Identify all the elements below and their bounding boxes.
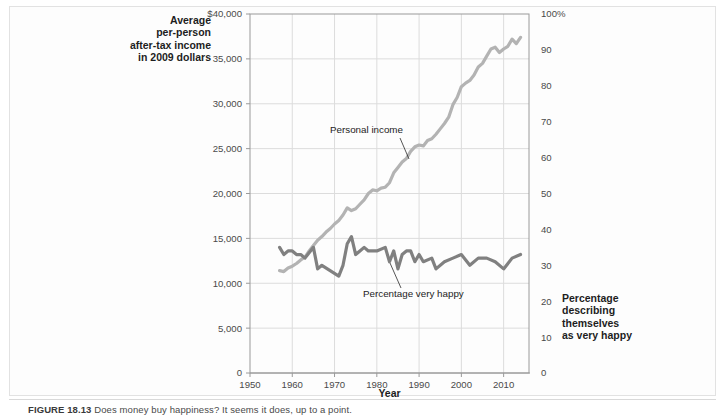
left-tick-label: 25,000 [213,143,242,154]
right-tick-label: 80 [541,80,552,91]
annotation-label-personal-income: Personal income [330,124,404,135]
x-tick-label: 2000 [451,379,472,390]
left-tick-label: 35,000 [213,53,242,64]
caption-text: Does money buy happiness? It seems it do… [94,404,352,415]
figure-page: Average per-person after-tax income in 2… [0,0,725,417]
left-tick-label: $40,000 [207,8,242,19]
left-tick-label: 30,000 [213,98,242,109]
x-tick-label: 1950 [239,379,260,390]
right-tick-label: 90 [541,44,552,55]
annotation-label-percentage-very-happy: Percentage very happy [363,288,464,299]
line-chart: 05,00010,00015,00020,00025,00030,00035,0… [0,0,725,400]
right-tick-label: 100% [541,8,566,19]
right-tick-label: 0 [541,367,546,378]
left-tick-label: 5,000 [218,323,242,334]
left-tick-label: 15,000 [213,233,242,244]
left-axis-ticks: 05,00010,00015,00020,00025,00030,00035,0… [207,8,250,378]
caption-label: FIGURE 18.13 [28,404,92,415]
x-tick-label: 1990 [408,379,429,390]
x-axis-ticks: 1950196019701980199020002010 [239,373,530,390]
right-axis-ticks: 0102030405060708090100% [541,8,566,378]
right-tick-label: 40 [541,224,552,235]
series-line-personal-income [280,37,521,271]
left-tick-label: 10,000 [213,278,242,289]
data-series-layer [280,37,521,276]
right-tick-label: 30 [541,260,552,271]
caption-divider [9,399,716,400]
left-tick-label: 20,000 [213,188,242,199]
right-tick-label: 10 [541,332,552,343]
right-tick-label: 70 [541,116,552,127]
gridlines [250,14,529,373]
x-tick-label: 1980 [366,379,387,390]
right-tick-label: 50 [541,188,552,199]
right-tick-label: 20 [541,296,552,307]
x-tick-label: 1970 [324,379,345,390]
x-tick-label: 2010 [493,379,514,390]
left-tick-label: 0 [237,367,242,378]
figure-caption: FIGURE 18.13 Does money buy happiness? I… [28,404,718,417]
right-tick-label: 60 [541,152,552,163]
x-tick-label: 1960 [282,379,303,390]
